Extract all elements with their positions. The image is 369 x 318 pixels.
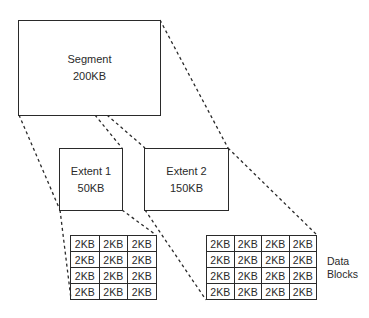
grid-row: 2KB 2KB 2KB bbox=[71, 236, 157, 252]
extent-2-size: 150KB bbox=[170, 180, 203, 197]
data-blocks-label-line1: Data bbox=[327, 255, 358, 268]
data-block: 2KB bbox=[234, 284, 262, 300]
data-block: 2KB bbox=[289, 284, 317, 300]
data-block: 2KB bbox=[207, 252, 235, 268]
extent-2-title: Extent 2 bbox=[166, 163, 206, 180]
grid-row: 2KB 2KB 2KB 2KB bbox=[207, 268, 317, 284]
data-block: 2KB bbox=[262, 284, 290, 300]
data-block: 2KB bbox=[262, 252, 290, 268]
dashed-connector-segment-extent2-right bbox=[160, 20, 228, 148]
data-block: 2KB bbox=[207, 268, 235, 284]
data-blocks-label-line2: Blocks bbox=[327, 268, 358, 281]
data-block: 2KB bbox=[207, 236, 235, 252]
data-block: 2KB bbox=[207, 284, 235, 300]
segment-title: Segment bbox=[67, 51, 111, 68]
dashed-connector-segment-extent1-right bbox=[95, 115, 122, 148]
data-block: 2KB bbox=[99, 236, 128, 252]
data-block: 2KB bbox=[71, 252, 100, 268]
data-block-grid-2: 2KB 2KB 2KB 2KB 2KB 2KB 2KB 2KB 2KB 2KB … bbox=[206, 235, 317, 300]
data-block: 2KB bbox=[234, 268, 262, 284]
data-block: 2KB bbox=[71, 284, 100, 300]
data-block: 2KB bbox=[289, 252, 317, 268]
dashed-connector-extent2-grid2-right bbox=[228, 148, 317, 235]
segment-size: 200KB bbox=[73, 68, 106, 85]
data-block: 2KB bbox=[99, 268, 128, 284]
data-blocks-label: Data Blocks bbox=[327, 255, 358, 281]
grid-row: 2KB 2KB 2KB bbox=[71, 268, 157, 284]
extent-2-box: Extent 2 150KB bbox=[144, 148, 229, 211]
segment-box: Segment 200KB bbox=[18, 20, 161, 116]
grid-row: 2KB 2KB 2KB 2KB bbox=[207, 236, 317, 252]
data-block: 2KB bbox=[289, 236, 317, 252]
data-block: 2KB bbox=[289, 268, 317, 284]
data-block: 2KB bbox=[128, 284, 157, 300]
data-block: 2KB bbox=[262, 236, 290, 252]
extent-1-title: Extent 1 bbox=[71, 163, 111, 180]
data-block: 2KB bbox=[128, 236, 157, 252]
data-block: 2KB bbox=[71, 268, 100, 284]
grid-row: 2KB 2KB 2KB 2KB bbox=[207, 284, 317, 300]
data-block: 2KB bbox=[262, 268, 290, 284]
data-block: 2KB bbox=[99, 284, 128, 300]
grid-row: 2KB 2KB 2KB bbox=[71, 252, 157, 268]
data-block-grid-1: 2KB 2KB 2KB 2KB 2KB 2KB 2KB 2KB 2KB 2KB … bbox=[70, 235, 157, 300]
data-block: 2KB bbox=[128, 268, 157, 284]
dashed-connector-segment-extent2-left bbox=[107, 115, 145, 148]
data-block: 2KB bbox=[234, 252, 262, 268]
grid-row: 2KB 2KB 2KB 2KB bbox=[207, 252, 317, 268]
data-block: 2KB bbox=[128, 252, 157, 268]
data-block: 2KB bbox=[71, 236, 100, 252]
grid-row: 2KB 2KB 2KB bbox=[71, 284, 157, 300]
dashed-connector-extent1-grid1-right bbox=[122, 210, 156, 235]
data-block: 2KB bbox=[99, 252, 128, 268]
extent-1-box: Extent 1 50KB bbox=[59, 148, 123, 211]
dashed-connector-segment-extent1-left bbox=[19, 115, 60, 210]
extent-1-size: 50KB bbox=[78, 180, 105, 197]
data-block: 2KB bbox=[234, 236, 262, 252]
